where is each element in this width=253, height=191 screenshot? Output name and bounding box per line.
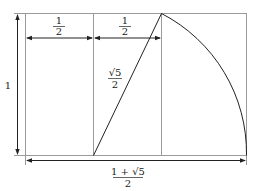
svg-text:2: 2 xyxy=(112,79,118,90)
golden-arc xyxy=(162,14,247,156)
diagonal-label: √5 2 xyxy=(108,67,122,90)
svg-text:1 + √5: 1 + √5 xyxy=(111,166,145,177)
half-left-label: 1 2 xyxy=(53,15,65,37)
svg-text:2: 2 xyxy=(122,26,128,37)
svg-text:1: 1 xyxy=(56,15,62,26)
svg-text:1: 1 xyxy=(122,15,128,26)
width-label: 1 + √5 2 xyxy=(111,166,145,189)
rectangle-frame xyxy=(14,13,247,165)
golden-rectangle-diagram: 1 1 2 1 2 √5 2 1 + √5 2 xyxy=(0,0,253,191)
svg-text:2: 2 xyxy=(56,26,62,37)
svg-text:√5: √5 xyxy=(109,67,122,78)
svg-text:2: 2 xyxy=(125,178,131,189)
half-right-label: 1 2 xyxy=(119,15,131,37)
height-label: 1 xyxy=(5,80,11,91)
